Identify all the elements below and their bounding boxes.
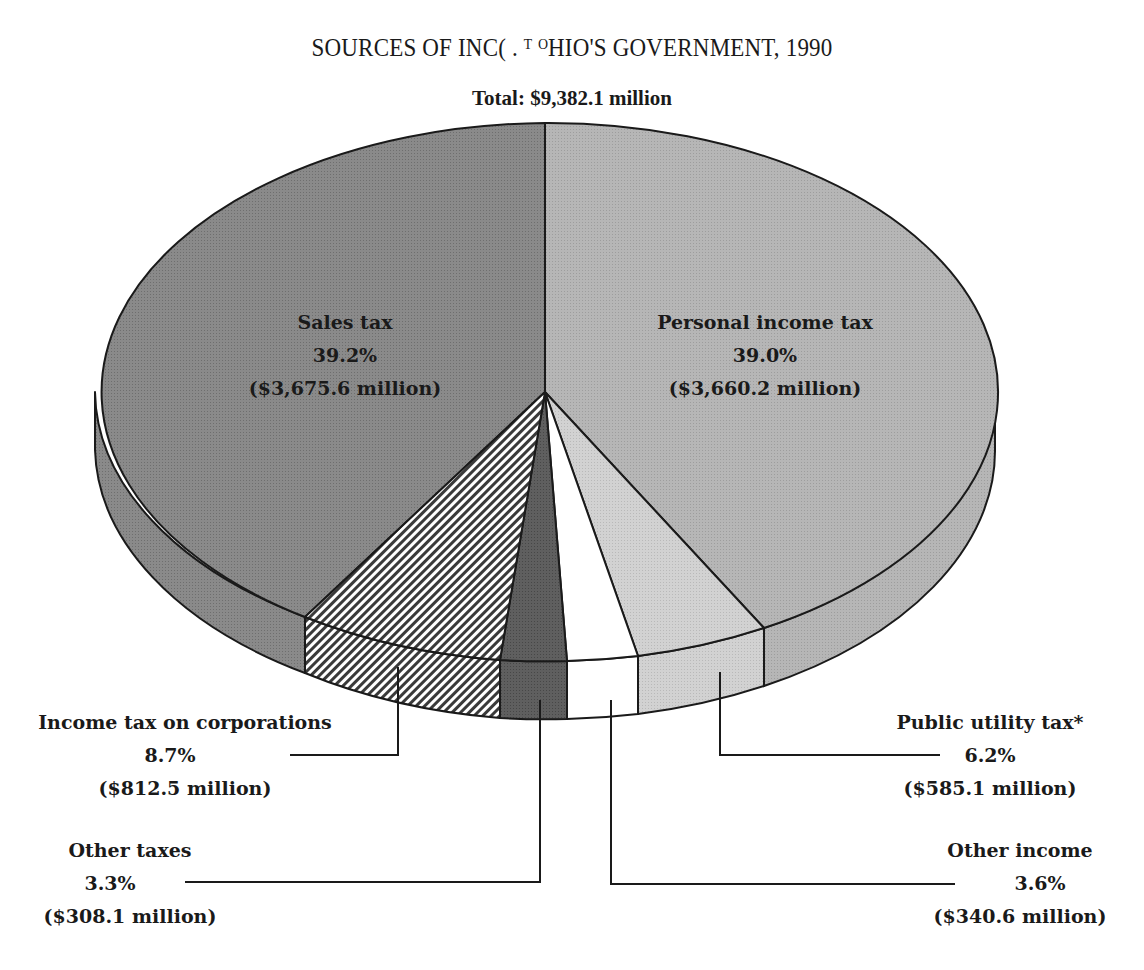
label-sales-tax: Sales tax 39.2% ($3,675.6 million) [225,306,465,405]
label-public-utility-tax: Public utility tax* 6.2% ($585.1 million… [870,706,1110,805]
label-personal-income-tax: Personal income tax 39.0% ($3,660.2 mill… [625,306,905,405]
label-other-taxes: Other taxes 3.3% ($308.1 million) [30,834,230,933]
slice-side-other-taxes [500,660,567,719]
label-other-income: Other income 3.6% ($340.6 million) [910,834,1130,933]
pie-chart [0,0,1144,970]
slice-side-other-income [567,656,638,719]
label-corporations: Income tax on corporations 8.7% ($812.5 … [5,706,365,805]
